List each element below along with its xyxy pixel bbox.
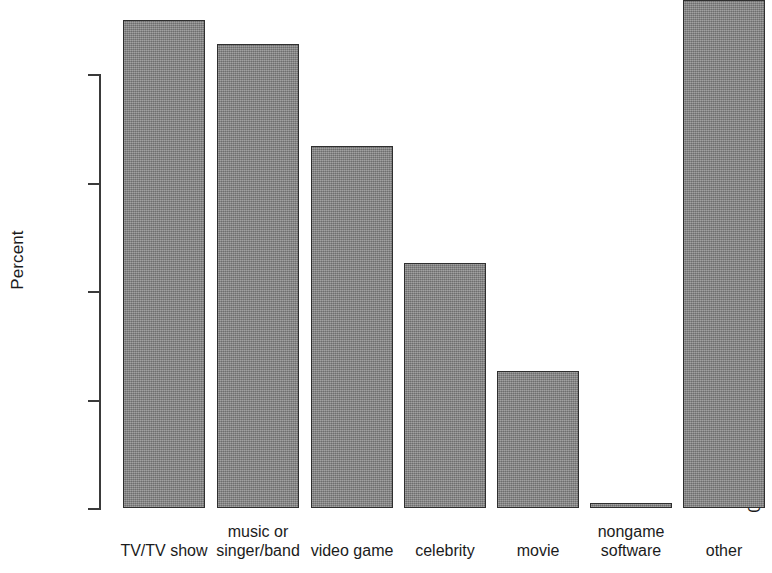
bar [590,503,672,508]
bar [404,263,486,508]
bar [497,371,579,508]
x-axis-label-line: nongame [574,522,688,541]
x-axis-label-line: music or [201,522,315,541]
bar [217,44,299,508]
x-axis-label-line: other [667,541,772,560]
plot-area [0,0,772,510]
bar [123,20,205,508]
bar [683,0,765,508]
bar-chart: Percent 05101520 TV/TV showmusic orsinge… [0,0,772,573]
bar [311,146,393,508]
x-axis-label: other [667,541,772,560]
